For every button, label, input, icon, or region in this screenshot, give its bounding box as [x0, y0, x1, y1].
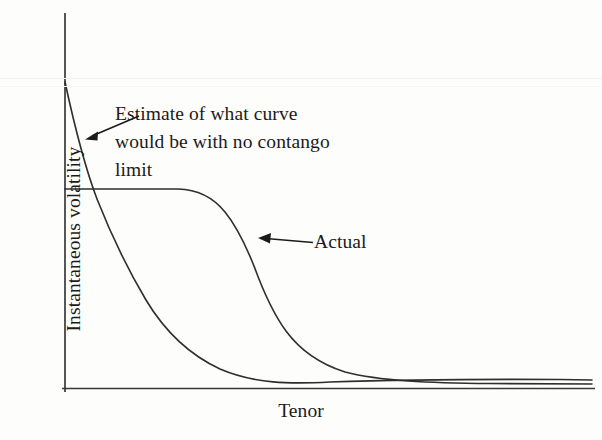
annotation-estimate-text: Estimate of what curve would be with no …: [115, 100, 330, 184]
figure-canvas: [0, 0, 602, 440]
y-axis-label: Instantaneous volatility: [63, 79, 85, 399]
axes-group: [62, 13, 595, 392]
x-axis-label: Tenor: [0, 400, 602, 422]
curve-actual: [65, 189, 592, 384]
actual-arrow-head: [258, 233, 271, 244]
estimate-arrow-head: [85, 132, 98, 141]
actual-arrow: [258, 233, 313, 244]
actual-arrow-shaft: [266, 239, 313, 243]
annotation-actual-text: Actual: [314, 231, 367, 253]
